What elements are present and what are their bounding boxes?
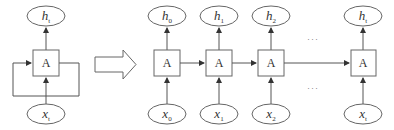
cell-label: A [215,56,224,70]
cell-label: A [163,56,172,70]
folded-rnn: ht A xt [13,6,79,124]
cell-label: A [267,56,276,70]
timestep-0: h0 A x0 [148,6,186,124]
timestep-1: h1 A x1 [200,6,238,124]
timestep-2: h2 A x2 [252,6,290,124]
rnn-diagram: ht A xt h0 A x0 h1 A [0,0,394,130]
ellipsis-bottom: ··· [307,83,319,93]
unroll-arrow-icon [95,50,136,79]
timestep-t: ht A xt [344,6,382,124]
cell-label: A [42,56,51,70]
unrolled-rnn: h0 A x0 h1 A x1 h2 A [148,6,382,124]
ellipsis-top: ··· [307,34,319,44]
cell-label: A [359,56,368,70]
